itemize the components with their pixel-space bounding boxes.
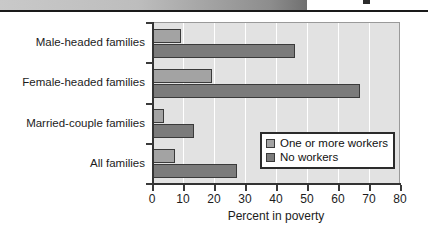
y-axis-label-male-headed-families: Male-headed families	[36, 36, 145, 48]
bar-married-couple-families-no-workers	[152, 124, 194, 138]
x-axis-tick-label-10: 10	[168, 192, 198, 206]
y-axis-label-married-couple-families: Married-couple families	[26, 117, 145, 129]
x-axis-tick-50	[307, 185, 309, 191]
legend-label: No workers	[280, 151, 338, 164]
x-axis-title: Percent in poverty	[152, 209, 400, 223]
y-axis-tick-1	[146, 62, 153, 64]
x-axis-tick-80	[400, 185, 402, 191]
x-axis-tick-label-50: 50	[292, 192, 322, 206]
x-axis-tick-label-0: 0	[137, 192, 167, 206]
legend-item-no-workers: No workers	[266, 150, 388, 164]
legend-swatch-icon	[266, 139, 275, 148]
bar-all-families-one-or-more-workers	[152, 149, 175, 163]
legend-item-one-or-more-workers: One or more workers	[266, 136, 388, 150]
x-axis-tick-label-70: 70	[354, 192, 384, 206]
x-axis-tick-label-60: 60	[323, 192, 353, 206]
x-axis-tick-10	[183, 185, 185, 191]
y-axis-tick-3	[146, 143, 153, 145]
x-axis-tick-label-20: 20	[199, 192, 229, 206]
header-cropped-mark-icon	[363, 0, 370, 4]
bar-female-headed-families-one-or-more-workers	[152, 69, 212, 83]
y-axis-tick-2	[146, 103, 153, 105]
x-axis-tick-label-80: 80	[385, 192, 415, 206]
x-axis-tick-0	[152, 185, 154, 191]
x-axis-tick-70	[369, 185, 371, 191]
chart-legend: One or more workersNo workers	[260, 132, 395, 169]
bar-female-headed-families-no-workers	[152, 84, 360, 98]
x-axis-tick-40	[276, 185, 278, 191]
y-axis-label-female-headed-families: Female-headed families	[22, 76, 145, 88]
y-axis-label-all-families: All families	[90, 157, 145, 169]
bar-male-headed-families-no-workers	[152, 44, 295, 58]
x-axis-tick-30	[245, 185, 247, 191]
x-axis-tick-label-30: 30	[230, 192, 260, 206]
bar-male-headed-families-one-or-more-workers	[152, 29, 181, 43]
x-axis-tick-20	[214, 185, 216, 191]
bar-all-families-no-workers	[152, 164, 237, 178]
bar-chart-figure: Male-headed familiesFemale-headed famili…	[0, 12, 428, 230]
legend-label: One or more workers	[280, 137, 388, 150]
legend-swatch-icon	[266, 153, 275, 162]
x-axis-tick-60	[338, 185, 340, 191]
y-axis-tick-0	[146, 22, 153, 24]
x-axis-tick-label-40: 40	[261, 192, 291, 206]
